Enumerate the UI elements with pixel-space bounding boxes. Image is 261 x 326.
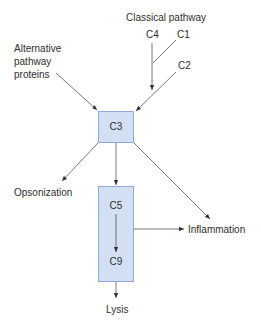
inflammation-label: Inflammation: [188, 223, 245, 236]
c5-to-c9-arrow-layer: [0, 0, 261, 326]
lysis-label: Lysis: [106, 303, 128, 316]
opsonization-label: Opsonization: [14, 186, 72, 199]
c9-label: C9: [98, 256, 134, 268]
